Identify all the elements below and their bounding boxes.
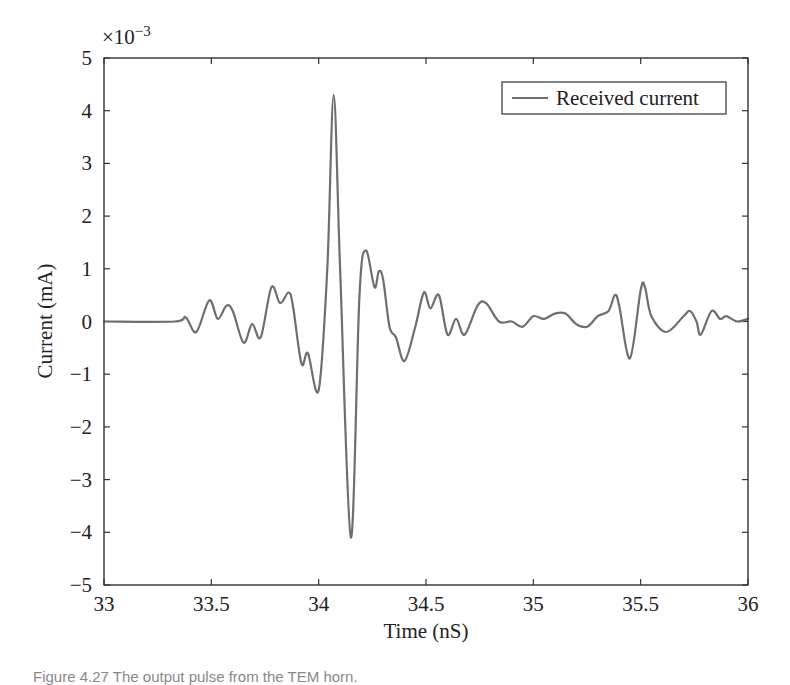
x-tick-labels: 3333.53434.53535.536 — [94, 592, 759, 616]
y-tick-label: −3 — [70, 468, 92, 492]
y-tick-label: 1 — [82, 257, 93, 281]
y-tick-label: −4 — [70, 520, 93, 544]
y-tick-label: 4 — [82, 99, 93, 123]
y-tick-label: 2 — [82, 204, 93, 228]
x-tick-label: 33.5 — [193, 592, 230, 616]
legend: Received current — [502, 82, 726, 114]
x-tick-label: 33 — [94, 592, 115, 616]
x-tick-label: 35 — [523, 592, 544, 616]
y-axis-label: Current (mA) — [33, 264, 57, 379]
y-tick-label: −1 — [70, 362, 92, 386]
y-tick-label: 3 — [82, 151, 93, 175]
y-tick-label: −5 — [70, 573, 92, 597]
x-tick-label: 34.5 — [408, 592, 445, 616]
legend-label: Received current — [556, 86, 699, 110]
y-multiplier-label: ×10−3 — [102, 23, 151, 49]
y-tick-label: 0 — [82, 310, 93, 334]
y-tick-label: −2 — [70, 415, 92, 439]
figure-caption: Figure 4.27 The output pulse from the TE… — [33, 668, 358, 685]
x-tick-label: 35.5 — [622, 592, 659, 616]
x-tick-label: 36 — [738, 592, 759, 616]
x-axis-label: Time (nS) — [384, 619, 469, 643]
received-current-line — [104, 95, 748, 538]
x-tick-label: 34 — [308, 592, 330, 616]
y-tick-label: 5 — [82, 46, 93, 70]
y-tick-labels: −5−4−3−2−1012345 — [70, 46, 93, 597]
